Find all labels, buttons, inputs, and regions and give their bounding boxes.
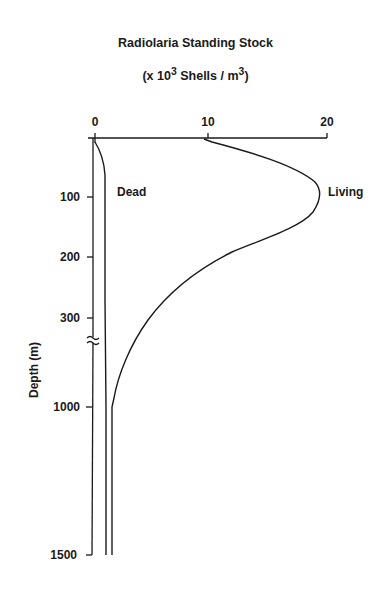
y-axis [86, 138, 93, 555]
y-tick-1500: 1500 [50, 548, 77, 562]
y-tick-300: 300 [60, 311, 80, 325]
y-tick-100: 100 [60, 190, 80, 204]
x-tick-20: 20 [320, 115, 334, 129]
series-living-line [112, 139, 320, 555]
x-tick-10: 10 [201, 115, 215, 129]
axis-break-icon [87, 337, 99, 345]
y-tick-200: 200 [60, 250, 80, 264]
series-dead-line [95, 142, 106, 555]
y-axis-label: Depth (m) [27, 342, 41, 398]
legend-living: Living [328, 185, 363, 199]
x-tick-0: 0 [92, 115, 99, 129]
legend-dead: Dead [117, 185, 146, 199]
chart-plot: 0 10 20 100 200 300 1000 1500 Depth (m) … [0, 0, 391, 593]
x-axis [88, 133, 327, 143]
y-tick-1000: 1000 [53, 400, 80, 414]
